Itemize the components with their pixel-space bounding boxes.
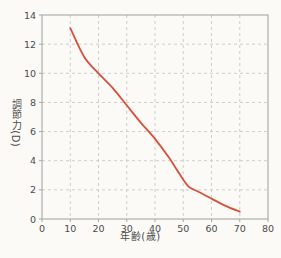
y-tick-label: 10 xyxy=(24,68,36,79)
y-tick-label: 4 xyxy=(30,155,36,166)
y-tick-label: 2 xyxy=(30,184,36,195)
y-tick-label: 0 xyxy=(30,214,36,225)
y-tick-label: 14 xyxy=(24,10,36,21)
y-tick-label: 8 xyxy=(30,97,36,108)
accommodation-vs-age-chart: 0102030405060708002468101214 調節力(D) 年齢(歳… xyxy=(0,0,281,258)
x-axis-label: 年齢(歳) xyxy=(0,232,281,242)
y-tick-label: 12 xyxy=(24,39,36,50)
y-tick-label: 6 xyxy=(30,126,36,137)
chart-plot-area: 0102030405060708002468101214 xyxy=(0,0,281,258)
y-axis-label: 調節力(D) xyxy=(10,99,20,148)
